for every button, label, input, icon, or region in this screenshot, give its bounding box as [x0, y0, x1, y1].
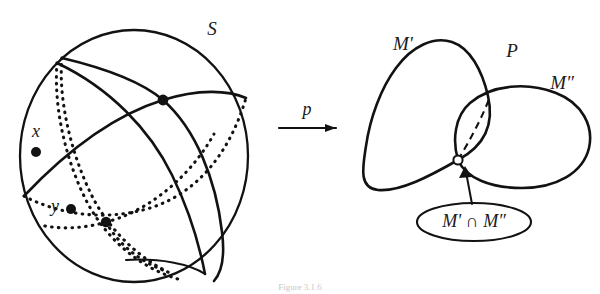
loop-M-prime — [363, 40, 490, 190]
sphere-arc-lower-node-left — [40, 222, 106, 228]
space-label-P: P — [505, 40, 518, 61]
point-y-marker — [66, 204, 76, 214]
caption-fragment: Figure 3.1.6 — [278, 282, 322, 292]
callout-arrow-head — [459, 166, 472, 178]
intersection-label: M' ∩ M″ — [441, 211, 506, 231]
loop-M-double-prime — [455, 86, 590, 188]
figure-container: S x y p M — [0, 0, 600, 294]
sphere-equator-front-b — [24, 92, 246, 196]
sphere-group: S x y — [20, 18, 248, 282]
sphere-node-upper — [158, 95, 169, 106]
sphere-label-S: S — [207, 18, 217, 39]
point-label-x: x — [31, 121, 40, 141]
quotient-group: M' P M″ M' ∩ M″ — [363, 33, 590, 241]
loop-label-M-double-prime: M″ — [549, 72, 575, 93]
figure-canvas: S x y p M — [0, 0, 600, 294]
loop-label-M-prime: M' — [392, 33, 414, 54]
map-arrow-head — [325, 124, 336, 132]
sphere-meridian-front-a-tail — [126, 260, 205, 274]
wedge-point-marker — [453, 155, 462, 164]
point-label-y: y — [49, 196, 59, 216]
map-arrow-group: p — [279, 99, 336, 132]
sphere-node-lower — [101, 217, 111, 227]
sphere-meridian-back-a — [56, 63, 178, 279]
sphere-outline — [20, 30, 248, 282]
map-label-p: p — [301, 99, 312, 119]
point-x-marker — [31, 147, 41, 157]
